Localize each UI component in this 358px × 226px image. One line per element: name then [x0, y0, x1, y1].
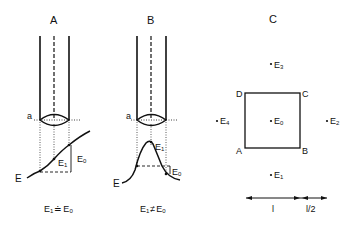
- point-e3: [270, 63, 272, 65]
- corner-b: B: [302, 146, 308, 156]
- label-e0: E0: [77, 154, 87, 164]
- corner-a: A: [236, 146, 242, 156]
- label-e1: E1: [274, 170, 284, 180]
- curve-point-center: [150, 141, 153, 144]
- label-e2: E2: [330, 116, 340, 126]
- equation-a: E1≐E0: [44, 204, 73, 214]
- arrow-left-icon: [246, 196, 252, 200]
- scale-bar: l l/2: [246, 196, 327, 214]
- curve-point-center: [53, 158, 56, 161]
- arrow-left-icon: [302, 196, 308, 200]
- corner-d: D: [236, 89, 243, 99]
- label-e0: E0: [172, 167, 182, 177]
- label-e1: E1: [155, 142, 165, 152]
- curve-point-right: [68, 144, 71, 147]
- scale-label-l: l: [272, 204, 274, 214]
- panel-b: B a E1 E0 E E1≠E0: [113, 14, 182, 214]
- point-e2: [326, 120, 328, 122]
- label-e3: E3: [274, 60, 284, 70]
- equation-b: E1≠E0: [140, 204, 166, 214]
- panel-a: A a E1 E0 E E1≐E0: [15, 14, 90, 214]
- panel-b-title: B: [147, 14, 154, 26]
- panel-a-title: A: [50, 14, 58, 26]
- curve-label-e: E: [113, 178, 120, 189]
- corner-c: C: [302, 89, 309, 99]
- curve-point-right: [165, 173, 168, 176]
- panel-c: C D C A B E0 E1 E2 E3 E4 l l/2: [216, 13, 340, 214]
- point-e1: [270, 174, 272, 176]
- figure: A a E1 E0 E E1≐E0 B a: [0, 0, 358, 226]
- plane-a-label: a: [126, 111, 131, 121]
- curve-label-e: E: [15, 173, 22, 184]
- point-e4: [216, 120, 218, 122]
- label-e4: E4: [220, 116, 230, 126]
- square-abcd: [245, 93, 300, 148]
- point-e0: [270, 120, 272, 122]
- scale-label-half: l/2: [306, 204, 316, 214]
- plane-a-label: a: [27, 111, 32, 121]
- arrow-right-icon: [321, 196, 327, 200]
- label-e1: E1: [58, 158, 68, 168]
- arrow-right-icon: [294, 196, 300, 200]
- label-e0: E0: [274, 116, 284, 126]
- panel-c-title: C: [269, 13, 277, 25]
